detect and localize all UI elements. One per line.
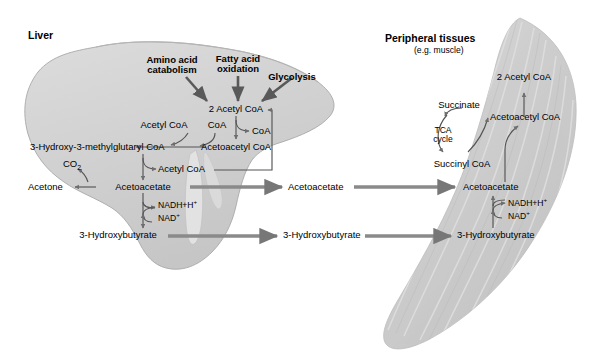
transport-acetoacetate: Acetoacetate: [288, 182, 343, 192]
cofactor-nadh-liver: NADH+H+: [158, 201, 197, 210]
metabolite-acetone: Acetone: [28, 182, 63, 192]
metabolite-hydroxybutyrate-liver: 3-Hydroxybutyrate: [79, 230, 157, 240]
input-glycolysis: Glycolysis: [268, 72, 316, 82]
metabolite-acetoacetate-peripheral: Acetoacetate: [463, 182, 518, 192]
metabolite-coa-input: CoA: [208, 120, 226, 130]
metabolite-acetyl-coa-input: Acetyl CoA: [141, 120, 188, 130]
metabolite-acetoacetate-liver: Acetoacetate: [115, 182, 170, 192]
transport-hydroxybutyrate: 3-Hydroxybutyrate: [283, 230, 361, 240]
cofactor-nad-peripheral: NAD+: [508, 212, 530, 221]
metabolite-two-acetyl-coa-liver: 2 Acetyl CoA: [209, 104, 263, 114]
metabolite-acetoacetyl-coa-peripheral: Acetoacetyl CoA: [490, 112, 560, 122]
cofactor-nad-liver: NAD+: [158, 214, 180, 223]
metabolite-succinate: Succinate: [438, 100, 480, 110]
cofactor-nadh-peripheral: NADH+H+: [508, 199, 547, 208]
metabolite-co2: CO2: [63, 159, 81, 169]
metabolite-succinyl-coa: Succinyl CoA: [434, 159, 491, 169]
metabolite-acetoacetyl-coa-liver: Acetoacetyl CoA: [201, 142, 271, 152]
peripheral-tissues-label: Peripheral tissues: [385, 33, 475, 44]
metabolite-hydroxybutyrate-peripheral: 3-Hydroxybutyrate: [457, 230, 535, 240]
peripheral-tissues-sublabel: (e.g. muscle): [414, 46, 464, 55]
metabolite-hmg-coa: 3-Hydroxy-3-methylglutaryl CoA: [30, 142, 165, 152]
tca-cycle-label: TCA cycle: [433, 126, 453, 144]
metabolite-coa-released: CoA: [252, 126, 270, 136]
pathway-diagram-artwork: [0, 0, 599, 356]
liver-label: Liver: [28, 30, 53, 41]
metabolite-two-acetyl-coa-peripheral: 2 Acetyl CoA: [497, 72, 551, 82]
metabolite-acetyl-coa-output: Acetyl CoA: [158, 164, 205, 174]
input-amino-acid-catabolism: Amino acid catabolism: [146, 55, 197, 75]
input-fatty-acid-oxidation: Fatty acid oxidation: [216, 54, 260, 74]
